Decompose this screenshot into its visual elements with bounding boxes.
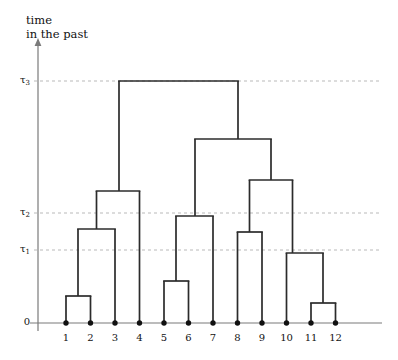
leaf-dot-7 — [210, 320, 215, 325]
axis-title: timein the past — [26, 14, 88, 41]
leaf-label-9: 9 — [251, 332, 273, 343]
leaf-dot-5 — [161, 320, 166, 325]
tick-label-tau2: τ2 — [8, 206, 30, 217]
axis-title-line1: time — [26, 13, 52, 27]
leaf-label-3: 3 — [104, 332, 126, 343]
leaf-label-4: 4 — [129, 332, 151, 343]
leaf-dot-9 — [259, 320, 264, 325]
gridlines-group — [34, 81, 382, 250]
leaf-label-6: 6 — [178, 332, 200, 343]
leaf-dot-2 — [88, 320, 93, 325]
leaf-dot-12 — [333, 320, 338, 325]
axis-title-line2: in the past — [26, 27, 88, 41]
leaf-label-5: 5 — [153, 332, 175, 343]
leaf-dot-1 — [63, 320, 68, 325]
leaf-label-12: 12 — [325, 332, 347, 343]
leaf-dot-6 — [186, 320, 191, 325]
tick-label-tau3: τ3 — [8, 74, 30, 85]
leaf-dot-8 — [235, 320, 240, 325]
tree-diagram — [0, 0, 398, 360]
leaf-label-10: 10 — [276, 332, 298, 343]
leaf-label-2: 2 — [80, 332, 102, 343]
coalescent-tree-figure: timein the past τ1τ2τ30 123456789101112 — [0, 0, 398, 360]
leaf-label-11: 11 — [300, 332, 322, 343]
leaf-dot-4 — [137, 320, 142, 325]
leaf-label-7: 7 — [202, 332, 224, 343]
tick-label-tau1: τ1 — [8, 243, 30, 254]
leaf-label-1: 1 — [55, 332, 77, 343]
axes-group — [30, 38, 382, 331]
leaf-label-8: 8 — [227, 332, 249, 343]
tree-branches-group — [65, 81, 336, 323]
leaf-dot-10 — [284, 320, 289, 325]
tick-label-zero: 0 — [8, 316, 30, 327]
leaf-dot-11 — [308, 320, 313, 325]
leaf-dot-3 — [112, 320, 117, 325]
